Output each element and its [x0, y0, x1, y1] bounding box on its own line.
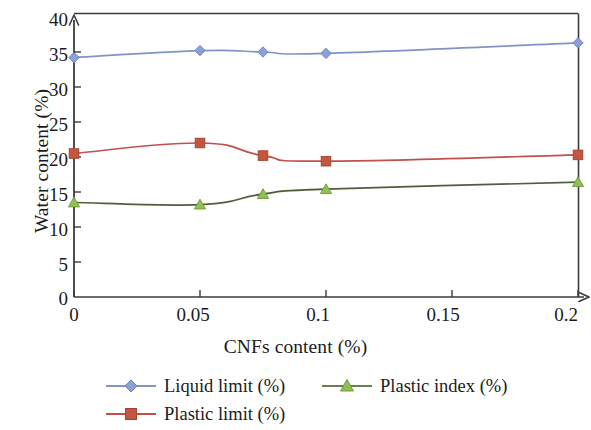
triangle-marker-icon: [320, 375, 374, 397]
x-axis-ticks: [74, 290, 578, 297]
square-marker-icon: [104, 403, 158, 425]
legend-label-plastic-limit: Plastic limit (%): [158, 404, 285, 425]
data-point: [69, 52, 79, 62]
legend-label-liquid-limit: Liquid limit (%): [158, 376, 285, 397]
data-point: [258, 47, 268, 57]
legend-item-liquid-limit: Liquid limit (%): [104, 374, 285, 398]
data-point: [195, 45, 205, 55]
data-point: [258, 151, 268, 161]
plot-area: Water content (%) 40 35 30 25 20 15 10 5…: [0, 0, 591, 320]
data-point: [573, 38, 583, 48]
x-axis: [74, 293, 589, 302]
legend-item-plastic-index: Plastic index (%): [320, 374, 507, 398]
series-plastic-index: [68, 177, 583, 209]
diamond-marker-icon: [104, 375, 158, 397]
series-liquid-limit: [69, 38, 583, 63]
series-plastic-limit: [69, 138, 583, 166]
data-point: [573, 150, 583, 160]
chart-legend: Liquid limit (%) Plastic limit (%) Plast…: [0, 372, 591, 430]
figure-chart-water-content: Water content (%) 40 35 30 25 20 15 10 5…: [0, 0, 591, 430]
legend-label-plastic-index: Plastic index (%): [374, 376, 507, 397]
data-point: [321, 48, 331, 58]
chart-canvas: [0, 0, 591, 320]
legend-item-plastic-limit: Plastic limit (%): [104, 402, 285, 426]
series-layer: [68, 38, 583, 209]
data-point: [321, 156, 331, 166]
data-point: [69, 149, 79, 159]
x-axis-label: CNFs content (%): [0, 336, 591, 358]
data-point: [195, 138, 205, 148]
